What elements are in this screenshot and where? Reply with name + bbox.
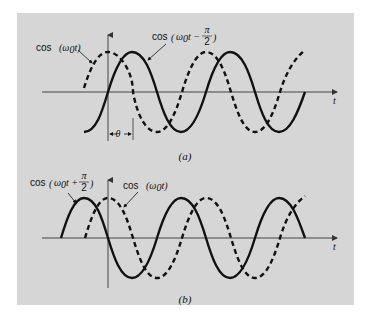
- label-cos-lagging-a: cos ( ω0t − π 2 ): [152, 24, 217, 47]
- svg-text:π: π: [204, 24, 210, 35]
- caption-b: (b): [179, 293, 192, 306]
- panel-a: θ cos (ω0t) cos ( ω0t − π 2 ) t (a): [36, 24, 337, 163]
- svg-text:2: 2: [81, 182, 87, 193]
- caption-a: (a): [179, 150, 192, 163]
- svg-text:cos: cos: [152, 31, 168, 42]
- label-cos-leading-b: cos ( ω0t + π 2 ): [30, 170, 94, 193]
- svg-text:): ): [89, 178, 94, 190]
- leader-cos-leading-b: [68, 193, 76, 203]
- svg-text:cos: cos: [30, 177, 46, 188]
- leader-cos-reference-a: [78, 50, 92, 63]
- svg-text:ω0t −: ω0t −: [176, 31, 200, 44]
- svg-text:): ): [212, 32, 217, 44]
- t-axis-label-b: t: [333, 241, 336, 252]
- svg-text:ω0t +: ω0t +: [54, 177, 78, 190]
- panel-b: cos ( ω0t + π 2 ) cos (ω0t) t (b): [30, 170, 337, 306]
- label-cos-reference-a: cos (ω0t): [36, 37, 81, 55]
- leader-cos-reference-b: [124, 192, 138, 207]
- t-axis-label-a: t: [333, 95, 336, 106]
- leader-cos-lagging-a: [148, 44, 166, 60]
- svg-text:(: (: [49, 178, 53, 190]
- svg-text:π: π: [81, 170, 87, 181]
- theta-label: θ: [116, 128, 121, 139]
- label-cos-reference-b: cos (ω0t): [123, 175, 168, 193]
- svg-text:(: (: [171, 32, 175, 44]
- phase-diagram: θ cos (ω0t) cos ( ω0t − π 2 ) t (a): [0, 0, 368, 334]
- svg-text:2: 2: [204, 36, 210, 47]
